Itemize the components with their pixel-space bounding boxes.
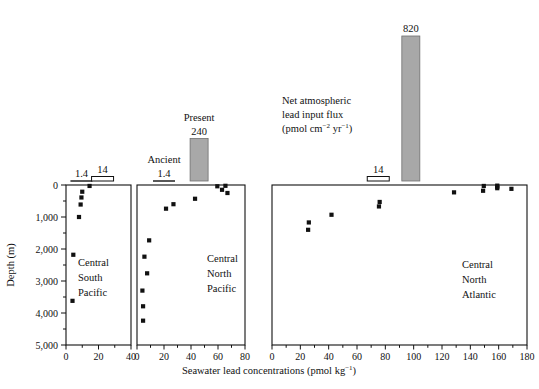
data-point: [79, 202, 83, 206]
x-tick-label: 0: [135, 351, 140, 362]
x-tick-label: 60: [213, 351, 223, 362]
data-point: [378, 200, 382, 204]
data-point: [70, 299, 74, 303]
panel-central-north-pacific: 020406080CentralNorthPacific1.4Ancient24…: [135, 112, 251, 362]
x-tick-label: 0: [270, 351, 275, 362]
data-point: [377, 204, 381, 208]
data-point: [495, 186, 499, 190]
data-point: [77, 215, 81, 219]
data-point: [481, 189, 485, 193]
data-points: [306, 184, 513, 232]
data-point: [223, 184, 227, 188]
panel-label: CentralSouthPacific: [78, 257, 109, 298]
x-tick-label: 60: [352, 351, 362, 362]
data-point: [307, 220, 311, 224]
data-point: [164, 207, 168, 211]
flux-bar-label: 820: [403, 23, 419, 34]
panel-label-line: South: [78, 272, 103, 283]
x-tick-label: 80: [240, 351, 250, 362]
panel-label-line: Pacific: [78, 287, 107, 298]
flux-caption-line-1: Net atmospheric: [282, 95, 351, 106]
data-point: [140, 289, 144, 293]
x-tick-label: 80: [380, 351, 390, 362]
data-point: [147, 238, 151, 242]
x-tick-label: 160: [491, 351, 506, 362]
panel-label-line: Pacific: [207, 283, 236, 294]
x-tick-label: 100: [406, 351, 421, 362]
flux-bars: 1.4Ancient240Present: [147, 112, 214, 181]
panel-label-line: North: [462, 274, 487, 285]
panel-label-line: North: [207, 268, 232, 279]
x-axis-title: Seawater lead concentrations (pmol kg−1): [182, 364, 357, 377]
y-tick-label: 3,000: [36, 276, 59, 287]
flux-bars: 14820: [367, 23, 420, 181]
data-point: [225, 191, 229, 195]
x-tick-label: 140: [463, 351, 478, 362]
y-axis: 01,0002,0003,0004,0005,000Depth (m): [5, 180, 66, 351]
flux-bar-label: 240: [191, 126, 207, 137]
x-axis: 020406080100120140160180: [270, 345, 535, 362]
x-axis: 020406080: [135, 345, 251, 362]
y-tick-label: 0: [53, 180, 58, 191]
x-tick-label: 20: [295, 351, 305, 362]
flux-caption-line-3: (pmol cm−2 yr−1): [282, 122, 353, 135]
panel-frame: [137, 185, 245, 345]
data-point: [141, 304, 145, 308]
data-point: [79, 195, 83, 199]
x-tick-label: 40: [186, 351, 196, 362]
data-point: [145, 271, 149, 275]
data-point: [329, 213, 333, 217]
panel-label-line: Central: [78, 257, 109, 268]
data-point: [509, 187, 513, 191]
y-tick-label: 4,000: [36, 308, 59, 319]
figure-root: 01,0002,0003,0004,0005,000Depth (m)02040…: [0, 0, 539, 389]
flux-bar-label: 14: [97, 164, 108, 175]
panel-label: CentralNorthAtlantic: [462, 259, 496, 300]
oceanographic-lead-profile-figure: 01,0002,0003,0004,0005,000Depth (m)02040…: [0, 0, 539, 389]
panel-label-line: Atlantic: [462, 289, 496, 300]
data-point: [220, 188, 224, 192]
x-tick-label: 0: [64, 351, 69, 362]
data-point: [482, 184, 486, 188]
panel-label: CentralNorthPacific: [207, 253, 238, 294]
flux-bar-label: 1.4: [157, 168, 171, 179]
x-axis: 02040: [64, 345, 137, 362]
data-point: [142, 255, 146, 259]
data-point: [87, 184, 91, 188]
flux-bar-label: 1.4: [75, 168, 89, 179]
flux-bars: 1.414: [70, 164, 113, 182]
flux-bar-label: 14: [373, 164, 384, 175]
flux-bar-present: [402, 36, 420, 181]
x-axis-title: Seawater lead concentrations (pmol kg−1): [182, 364, 357, 377]
data-point: [306, 228, 310, 232]
panel-label-line: Central: [462, 259, 493, 270]
y-axis-title: Depth (m): [5, 243, 17, 287]
flux-caption-line-2: lead input flux: [282, 109, 344, 120]
x-tick-label: 20: [94, 351, 104, 362]
data-point: [80, 190, 84, 194]
data-point: [452, 190, 456, 194]
flux-bar-small: [367, 177, 389, 182]
y-tick-label: 2,000: [36, 244, 59, 255]
flux-bar-small: [92, 177, 114, 182]
x-tick-label: 180: [520, 351, 535, 362]
x-tick-label: 20: [159, 351, 169, 362]
data-point: [193, 197, 197, 201]
y-tick-label: 1,000: [36, 212, 59, 223]
panel-label-line: Central: [207, 253, 238, 264]
flux-caption: Net atmosphericlead input flux(pmol cm−2…: [282, 95, 353, 135]
panel-central-north-atlantic: 020406080100120140160180CentralNorthAtla…: [270, 23, 535, 362]
data-point: [215, 184, 219, 188]
legend-present-label: Present: [184, 112, 215, 123]
legend-ancient-label: Ancient: [147, 154, 180, 165]
x-tick-label: 120: [435, 351, 450, 362]
flux-bar-present: [190, 139, 208, 181]
data-point: [171, 202, 175, 206]
x-tick-label: 40: [324, 351, 334, 362]
panel-central-south-pacific: 02040CentralSouthPacific1.414: [64, 164, 137, 363]
data-points: [70, 184, 91, 303]
y-tick-label: 5,000: [36, 340, 59, 351]
data-point: [141, 319, 145, 323]
data-point: [71, 253, 75, 257]
